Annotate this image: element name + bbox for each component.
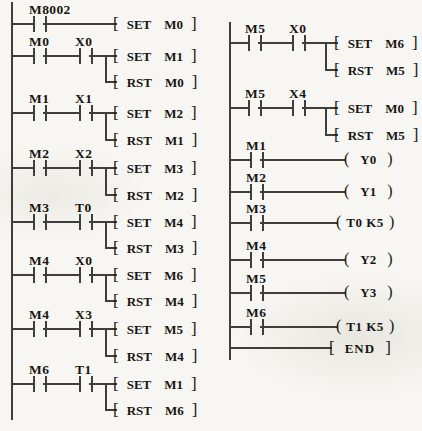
end-label: END — [345, 340, 375, 356]
coil-label: Y0 — [360, 152, 376, 168]
instruction-op: SET — [127, 105, 152, 121]
instruction-op: SET — [127, 376, 152, 392]
instruction-operand: M3 — [164, 160, 183, 176]
end-instruction: [ END ] — [329, 340, 391, 357]
output-coil: ( Y0 ) — [344, 152, 393, 168]
wire — [260, 292, 345, 294]
instruction-operand: M6 — [164, 267, 183, 283]
output-coil: ( Y1 ) — [344, 184, 393, 200]
instruction: [ SET M3 ] — [113, 160, 197, 177]
open-paren: ( — [344, 251, 349, 267]
open-paren: ( — [344, 183, 349, 199]
wire — [43, 167, 79, 169]
wire — [11, 112, 33, 114]
close-paren: ) — [387, 251, 392, 267]
instruction: [ RST M5 ] — [334, 127, 418, 144]
close-bracket: ] — [192, 292, 198, 309]
branch-wire — [105, 55, 107, 83]
close-bracket: ] — [191, 47, 197, 64]
wire — [260, 259, 345, 261]
wire — [260, 191, 345, 193]
wire — [229, 222, 250, 224]
close-bracket: ] — [192, 401, 198, 418]
open-paren: ( — [336, 318, 341, 334]
instruction-op: SET — [348, 35, 373, 51]
instruction: [ SET M6 ] — [334, 35, 418, 52]
instruction-op: RST — [127, 240, 152, 256]
wire — [43, 328, 79, 330]
contact-label: X4 — [289, 87, 306, 101]
contact-label: M5 — [245, 22, 265, 36]
wire — [302, 42, 338, 44]
close-bracket: ] — [192, 347, 198, 364]
wire — [260, 222, 338, 224]
wire — [43, 23, 117, 25]
coil-label: T1 K5 — [346, 319, 384, 335]
instruction-operand: M6 — [165, 402, 184, 418]
instruction-op: SET — [127, 16, 152, 32]
open-bracket: [ — [113, 104, 119, 121]
open-bracket: [ — [113, 375, 119, 392]
contact-label: M8002 — [29, 3, 71, 17]
instruction-operand: M4 — [165, 348, 184, 364]
open-bracket: [ — [113, 131, 119, 148]
instruction-op: RST — [127, 132, 152, 148]
close-paren: ) — [389, 214, 394, 230]
wire — [11, 55, 33, 57]
open-bracket: [ — [113, 292, 119, 309]
contact-label: X0 — [75, 254, 92, 268]
close-paren: ) — [389, 318, 394, 334]
close-paren: ) — [387, 151, 392, 167]
instruction-operand: M2 — [164, 105, 183, 121]
instruction-op: RST — [127, 187, 152, 203]
close-bracket: ] — [191, 320, 197, 337]
close-bracket: ] — [192, 186, 198, 203]
output-coil: ( Y2 ) — [344, 252, 393, 268]
instruction-op: SET — [127, 321, 152, 337]
instruction-op: RST — [348, 62, 373, 78]
instruction-op: SET — [127, 214, 152, 230]
instruction: [ SET M0 ] — [334, 100, 418, 117]
branch-wire — [105, 221, 107, 249]
contact-label: X0 — [75, 35, 92, 49]
instruction: [ RST M2 ] — [113, 187, 197, 204]
wire — [258, 42, 292, 44]
open-paren: ( — [344, 151, 349, 167]
instruction-operand: M1 — [165, 132, 184, 148]
close-bracket: ] — [191, 213, 197, 230]
open-bracket: [ — [113, 401, 119, 418]
contact-label: X1 — [75, 92, 92, 106]
branch-wire — [105, 167, 107, 196]
instruction-op: RST — [348, 127, 373, 143]
instruction-op: SET — [348, 100, 373, 116]
instruction-operand: M0 — [385, 100, 404, 116]
wire — [229, 42, 248, 44]
contact-label: M6 — [29, 363, 49, 377]
output-coil: ( Y3 ) — [344, 285, 393, 301]
instruction: [ SET M6 ] — [113, 267, 197, 284]
wire — [229, 159, 250, 161]
wire — [229, 191, 250, 193]
wire — [302, 107, 338, 109]
wire — [229, 292, 250, 294]
contact-label: X0 — [289, 22, 306, 36]
close-paren: ) — [387, 284, 392, 300]
instruction: [ SET M2 ] — [113, 105, 197, 122]
open-bracket: [ — [113, 186, 119, 203]
contact-label: X2 — [75, 147, 92, 161]
instruction-op: RST — [127, 402, 152, 418]
wire — [11, 221, 33, 223]
instruction-operand: M4 — [164, 214, 183, 230]
close-bracket: ] — [191, 159, 197, 176]
open-bracket: [ — [113, 73, 119, 90]
contact-label: X3 — [75, 308, 92, 322]
open-paren: ( — [336, 214, 341, 230]
open-bracket: [ — [113, 239, 119, 256]
contact-label: M3 — [246, 202, 266, 216]
close-bracket: ] — [191, 266, 197, 283]
close-bracket: ] — [192, 73, 198, 90]
open-bracket: [ — [113, 213, 119, 230]
wire — [11, 167, 33, 169]
open-bracket: [ — [334, 34, 340, 51]
contact-label: T0 — [75, 201, 92, 215]
